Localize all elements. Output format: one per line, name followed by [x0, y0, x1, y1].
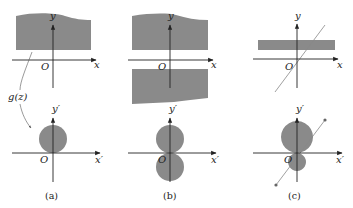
y-label-b: y [167, 10, 174, 21]
mapping-label: g(z) [8, 91, 28, 102]
x-label-c: x [337, 59, 343, 70]
origin-label-a: O [41, 61, 49, 72]
y-prime-label-b: y′ [168, 103, 178, 114]
y-prime-label-a: y′ [51, 103, 61, 114]
mapping-arrow-lower [20, 104, 31, 128]
caption-c: (c) [288, 190, 301, 201]
x-label-b: x [211, 59, 217, 70]
x-prime-label-c: x′ [336, 154, 345, 165]
origin-label-b: O [158, 61, 166, 72]
panel-b: y x O y′ x′ O (b) [128, 10, 220, 201]
y-label-a: y [49, 10, 56, 21]
caption-a: (a) [45, 190, 58, 201]
conformal-mapping-figure: y x O g(z) y′ x′ O (a) y x O y′ x′ O (b) [0, 0, 353, 208]
origin-prime-label-c: O [284, 154, 292, 165]
endpoint-dot-upper [323, 118, 326, 121]
diagonal-line-c [275, 25, 325, 92]
panel-c: y x O y′ x′ O (c) [253, 10, 345, 201]
endpoint-dot-lower [274, 183, 277, 186]
panel-a: y x O g(z) y′ x′ O (a) [8, 10, 104, 201]
y-label-c: y [294, 10, 301, 21]
origin-prime-label-a: O [40, 154, 48, 165]
mapping-arrow [20, 52, 32, 90]
origin-prime-label-b: O [158, 154, 166, 165]
x-prime-label-b: x′ [211, 154, 220, 165]
y-prime-label-c: y′ [295, 103, 305, 114]
x-prime-label-a: x′ [95, 154, 104, 165]
z-strip-c [258, 40, 335, 50]
x-label-a: x [94, 59, 100, 70]
origin-label-c: O [285, 61, 293, 72]
caption-b: (b) [163, 190, 177, 201]
